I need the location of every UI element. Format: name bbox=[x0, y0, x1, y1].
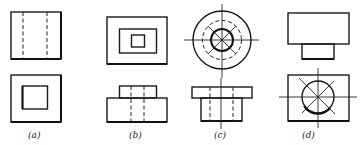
panel-a: (a) bbox=[11, 12, 61, 140]
diagonal bbox=[299, 78, 335, 114]
panel-d-label: (d) bbox=[302, 130, 315, 140]
panel-a-label: (a) bbox=[28, 130, 41, 140]
panel-d-front-view bbox=[288, 13, 349, 59]
panel-b: (b) bbox=[107, 17, 167, 140]
panel-b-front-view bbox=[107, 86, 167, 122]
panel-c-top-view bbox=[184, 4, 259, 78]
panel-c-label: (c) bbox=[214, 130, 227, 140]
panel-b-top-view bbox=[107, 17, 167, 64]
orthographic-projection-figure: (a) (b) bbox=[0, 0, 360, 145]
panel-a-front-view bbox=[11, 12, 61, 59]
panel-d-top-view bbox=[279, 68, 357, 128]
panel-a-top-view bbox=[11, 75, 61, 122]
panel-c: (c) bbox=[184, 4, 259, 140]
panel-b-label: (b) bbox=[129, 130, 142, 140]
panel-c-front-view bbox=[192, 78, 252, 129]
panel-d: (d) bbox=[279, 13, 357, 140]
